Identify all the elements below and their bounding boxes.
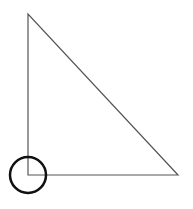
right-triangle [28, 14, 178, 175]
diagram-canvas [0, 0, 193, 209]
